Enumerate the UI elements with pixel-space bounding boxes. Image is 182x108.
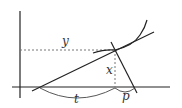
- label-t: t: [74, 92, 79, 106]
- label-y: y: [61, 34, 69, 48]
- diagram-canvas: y x t p: [0, 0, 182, 108]
- label-p: p: [122, 89, 130, 103]
- label-x: x: [106, 63, 113, 77]
